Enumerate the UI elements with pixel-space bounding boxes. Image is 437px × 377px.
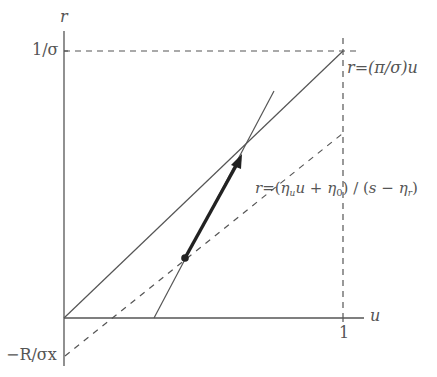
- dashed-label-eta-u: η: [281, 179, 290, 197]
- dashed-label-eta-r: η: [399, 179, 408, 197]
- dashed-label-s: s: [369, 179, 377, 197]
- dashed-line: [65, 134, 342, 356]
- u-axis-label: u: [370, 308, 380, 324]
- dashed-label-eta-0: η: [327, 179, 336, 197]
- dashed-label-u: u: [295, 179, 305, 197]
- upper-line-label-eq: =: [355, 58, 368, 77]
- r-axis-label: r: [60, 9, 68, 25]
- upper-line-label: r=(π/σ)u: [347, 60, 418, 76]
- diagram: r 1/σ −R/σx u 1 r=(π/σ)u r=(ηuu + η0) / …: [0, 0, 437, 377]
- dashed-label-eq: =: [262, 179, 275, 197]
- dashed-label-close: ): [412, 179, 418, 197]
- y-tick-top-label: 1/σ: [32, 42, 59, 58]
- dashed-line-label: r=(ηuu + η0) / (s − ηr): [255, 181, 418, 198]
- dashed-label-plus: +: [305, 179, 327, 197]
- y-tick-bottom-label: −R/σx: [6, 347, 57, 363]
- start-dot: [181, 254, 189, 262]
- upper-line-label-lhs: r: [347, 58, 355, 77]
- dashed-label-minus: −: [377, 179, 399, 197]
- upper-line-label-rhs: (π/σ)u: [368, 58, 418, 77]
- dashed-label-close-div: ) / (: [343, 179, 369, 197]
- x-tick-1-label: 1: [339, 325, 349, 341]
